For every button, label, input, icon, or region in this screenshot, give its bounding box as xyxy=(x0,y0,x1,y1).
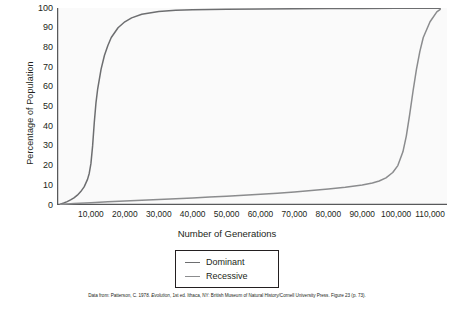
y-tick-label: 30 xyxy=(31,141,53,150)
y-tick-label: 40 xyxy=(31,122,53,131)
chart-legend: DominantRecessive xyxy=(175,250,279,288)
plot-area xyxy=(57,8,447,205)
legend-item[interactable]: Recessive xyxy=(185,269,278,283)
citation-title: Evolution xyxy=(151,293,170,298)
series-line-recessive xyxy=(60,9,440,204)
y-tick-label: 90 xyxy=(31,23,53,32)
legend-item[interactable]: Dominant xyxy=(185,255,278,269)
legend-swatch-icon xyxy=(185,276,200,277)
y-tick-label: 10 xyxy=(31,181,53,190)
source-citation: Data from: Patterson, C. 1978. Evolution… xyxy=(0,293,454,299)
legend-swatch-icon xyxy=(185,262,200,263)
y-tick-label: 80 xyxy=(31,43,53,52)
y-axis-tick-labels: 0102030405060708090100 xyxy=(28,8,53,205)
y-tick-label: 70 xyxy=(31,63,53,72)
y-tick-label: 50 xyxy=(31,102,53,111)
y-tick-label: 20 xyxy=(31,161,53,170)
x-tick-label: 110,000 xyxy=(400,209,454,219)
plot-svg xyxy=(57,8,447,205)
citation-suffix: , 1st ed. Ithaca, NY: British Museum of … xyxy=(170,293,366,298)
chart-figure: Percentage of Population 010203040506070… xyxy=(0,0,454,312)
x-axis-title: Number of Generations xyxy=(0,228,454,239)
citation-prefix: Data from: Patterson, C. 1978. xyxy=(88,293,151,298)
y-tick-label: 100 xyxy=(31,4,53,13)
series-line-dominant xyxy=(60,8,440,204)
legend-label: Recessive xyxy=(206,271,248,281)
y-tick-label: 60 xyxy=(31,82,53,91)
legend-label: Dominant xyxy=(206,257,245,267)
x-axis-tick-labels: 10,00020,00030,00040,00050,00060,00070,0… xyxy=(0,209,454,223)
